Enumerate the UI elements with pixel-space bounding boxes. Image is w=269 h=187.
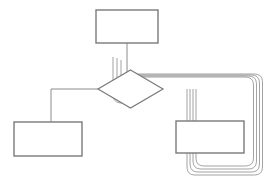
diagram-svg — [0, 0, 269, 187]
diagram-canvas — [0, 0, 269, 187]
top-process-box[interactable] — [96, 10, 158, 43]
bottom-left-process-box[interactable] — [14, 122, 82, 156]
node-group — [14, 10, 244, 156]
bottom-right-process-box[interactable] — [176, 121, 244, 153]
